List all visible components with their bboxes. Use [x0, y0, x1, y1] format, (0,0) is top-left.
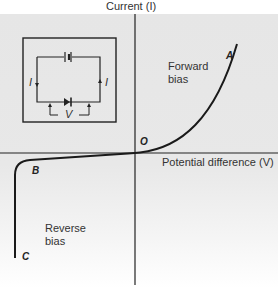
diode-icon	[64, 98, 72, 107]
reverse-bias-label: Reverse bias	[45, 222, 86, 248]
circuit-current-left-label: I	[29, 76, 32, 89]
x-axis-label: Potential difference (V)	[162, 156, 274, 169]
y-axis-label: Current (I)	[106, 0, 156, 13]
circuit-current-right-label: I	[105, 76, 108, 89]
point-b-label: B	[32, 165, 39, 176]
voltage-arrow-left-icon	[48, 103, 52, 107]
point-a-label: A	[226, 50, 233, 61]
voltage-arrow-right-icon	[87, 103, 91, 107]
current-arrow-up-icon	[98, 79, 102, 83]
circuit-voltage-label: V	[65, 108, 72, 121]
point-o-label: O	[140, 136, 148, 147]
cell-icon	[65, 52, 71, 62]
current-arrow-down-icon	[35, 83, 39, 87]
circuit-wire	[37, 57, 100, 102]
graph-canvas	[0, 0, 278, 288]
diode-iv-figure: Current (I) Potential difference (V) For…	[0, 0, 278, 288]
forward-bias-label: Forward bias	[168, 60, 208, 86]
point-c-label: C	[22, 251, 29, 262]
